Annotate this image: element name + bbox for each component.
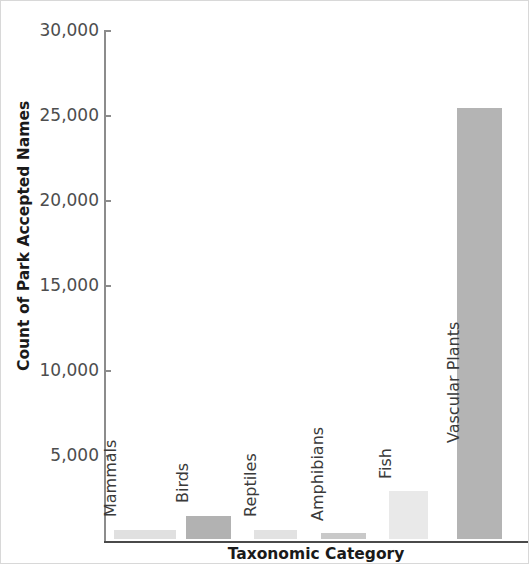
bar-category-label: Vascular Plants [444,322,463,443]
y-axis-tick [104,285,111,287]
bar-chart-figure: Count of Park Accepted Names 30,00025,00… [0,0,529,564]
bar-category-label: Amphibians [308,427,327,521]
y-axis-tick-label: 20,000 [1,190,99,210]
y-axis-tick-label: 10,000 [1,360,99,380]
y-axis-tick-label: 30,000 [1,20,99,40]
bar[interactable] [186,516,231,539]
y-axis-tick-label: 25,000 [1,105,99,125]
bar[interactable] [321,533,366,539]
bar[interactable] [254,530,297,539]
y-axis-tick [104,30,111,32]
y-axis-tick-label: 15,000 [1,275,99,295]
y-axis-tick-label: 5,000 [1,445,99,465]
bar[interactable] [457,108,502,539]
y-axis-tick [104,115,111,117]
x-axis-title: Taxonomic Category [104,545,528,563]
y-axis-tick [104,370,111,372]
bar-category-label: Mammals [101,440,120,517]
bar-category-label: Reptiles [241,453,260,517]
bar[interactable] [114,530,176,539]
bar-category-label: Fish [376,448,395,479]
y-axis-tick [104,200,111,202]
bar[interactable] [389,491,428,539]
bar-category-label: Birds [173,463,192,503]
x-axis-line [104,541,528,543]
